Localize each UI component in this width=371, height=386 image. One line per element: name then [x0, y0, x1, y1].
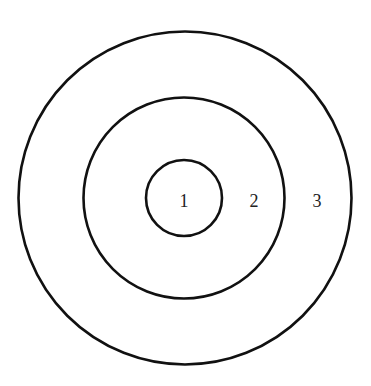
region-label-2: 2 [250, 191, 259, 211]
concentric-circles-diagram: 1 2 3 [0, 0, 371, 386]
region-label-3: 3 [313, 191, 322, 211]
region-label-1: 1 [180, 191, 189, 211]
